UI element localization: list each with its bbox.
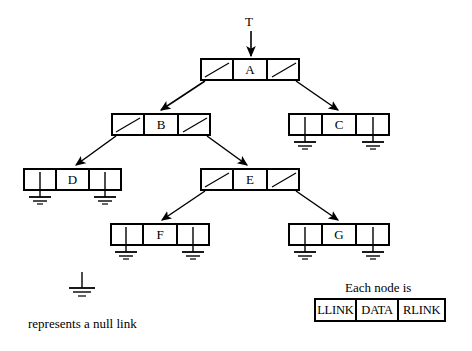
each-node-legend-text: Each node is bbox=[345, 280, 411, 296]
node-D-rlink-cell[interactable] bbox=[88, 170, 120, 189]
node-E-data-cell: E bbox=[234, 170, 267, 189]
node-C-llink-cell[interactable] bbox=[290, 115, 323, 134]
edge-B-to-D bbox=[76, 136, 116, 165]
node-C-data-cell: C bbox=[323, 115, 356, 134]
node-D-data-cell: D bbox=[57, 170, 89, 189]
edge-E-to-F bbox=[162, 191, 205, 220]
legend-data-cell: DATA bbox=[357, 300, 400, 320]
node-E-llink-cell[interactable] bbox=[202, 170, 234, 189]
ground-icon-legend bbox=[69, 272, 95, 296]
tree-node-B[interactable]: B bbox=[111, 113, 211, 136]
legend-llink-cell: LLINK bbox=[316, 300, 357, 320]
node-F-rlink-cell[interactable] bbox=[176, 225, 208, 244]
node-B-llink-cell[interactable] bbox=[113, 115, 145, 134]
legend-rlink-cell: RLINK bbox=[399, 300, 444, 320]
tree-node-E[interactable]: E bbox=[200, 168, 300, 191]
tree-node-G[interactable]: G bbox=[288, 223, 390, 246]
edge-E-to-G bbox=[296, 191, 338, 220]
node-B-rlink-cell[interactable] bbox=[177, 115, 209, 134]
tree-node-C[interactable]: C bbox=[288, 113, 390, 136]
node-E-rlink-cell[interactable] bbox=[266, 170, 298, 189]
null-link-legend-text: represents a null link bbox=[28, 316, 137, 332]
node-F-llink-cell[interactable] bbox=[112, 225, 144, 244]
node-D-llink-cell[interactable] bbox=[25, 170, 57, 189]
node-F-data-cell: F bbox=[144, 225, 177, 244]
node-A-data-cell: A bbox=[234, 60, 267, 79]
tree-node-A[interactable]: A bbox=[200, 58, 300, 81]
node-structure-legend-box: LLINK DATA RLINK bbox=[314, 298, 446, 322]
node-A-llink-cell[interactable] bbox=[202, 60, 234, 79]
edge-A-to-B bbox=[161, 81, 205, 110]
node-G-rlink-cell[interactable] bbox=[355, 225, 388, 244]
node-B-data-cell: B bbox=[145, 115, 178, 134]
tree-node-D[interactable]: D bbox=[23, 168, 122, 191]
node-G-data-cell: G bbox=[323, 225, 356, 244]
node-C-rlink-cell[interactable] bbox=[355, 115, 388, 134]
edge-A-to-C bbox=[296, 81, 338, 110]
binary-tree-diagram-canvas: T A B C D E F G represents a null link bbox=[0, 0, 472, 351]
node-A-rlink-cell[interactable] bbox=[266, 60, 298, 79]
node-G-llink-cell[interactable] bbox=[290, 225, 323, 244]
root-pointer-label: T bbox=[245, 14, 253, 30]
edge-B-to-E bbox=[207, 136, 247, 165]
tree-node-F[interactable]: F bbox=[110, 223, 210, 246]
